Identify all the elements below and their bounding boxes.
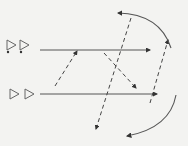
dot-marker xyxy=(7,51,9,53)
dashed-arrow xyxy=(96,18,131,129)
lower-arc xyxy=(127,95,176,136)
dot-marker xyxy=(20,51,22,53)
row-bottom xyxy=(10,89,157,99)
triangle-icon xyxy=(25,89,34,99)
triangle-icon xyxy=(7,40,16,50)
triangle-icon xyxy=(20,40,29,50)
row-top xyxy=(7,40,150,53)
dashed-arrow xyxy=(55,51,77,86)
triangle-icon xyxy=(10,89,19,99)
dashed-arrow xyxy=(150,40,168,103)
diagram-svg xyxy=(0,0,188,146)
dashed-arrow xyxy=(104,53,136,88)
diagram-canvas xyxy=(0,0,188,146)
upper-arc xyxy=(118,13,171,48)
